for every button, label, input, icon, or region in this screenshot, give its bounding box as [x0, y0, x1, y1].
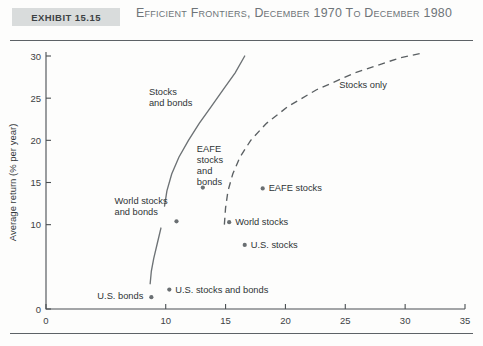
y-tick-label: 15 — [30, 177, 41, 188]
footer-divider-bottom — [10, 333, 473, 334]
x-tick-label: 20 — [280, 315, 291, 326]
x-tick-label: 25 — [340, 315, 351, 326]
data-point-label: bonds — [197, 177, 223, 187]
exhibit-header: Exhibit 15.15 Efficient Frontiers, Decem… — [0, 6, 483, 38]
data-point-label: stocks — [197, 155, 224, 165]
data-point-label: World stocks — [235, 217, 288, 227]
data-point-label: and — [197, 166, 213, 176]
y-tick-label: 0 — [36, 304, 41, 315]
y-tick-label: 30 — [30, 51, 41, 62]
exhibit-number-label: Exhibit 15.15 — [31, 12, 101, 23]
x-tick-label: 30 — [400, 315, 411, 326]
efficient-frontier-scatter-chart: 010152025300101520253035Risk (% per year… — [0, 44, 483, 329]
data-point-label: U.S. stocks and bonds — [175, 285, 268, 295]
data-point-u-s-stocks-and-bonds — [167, 288, 171, 292]
frontier-curve-stocks-only — [224, 53, 424, 225]
curve-label: and bonds — [149, 98, 193, 108]
curve-label: Stocks — [149, 87, 177, 97]
y-axis-title: Average return (% per year) — [7, 124, 18, 242]
chart-area: 010152025300101520253035Risk (% per year… — [0, 44, 483, 329]
data-point-label: U.S. stocks — [251, 240, 298, 250]
curve-label: Stocks only — [339, 80, 387, 90]
data-point-label: and bonds — [114, 207, 158, 217]
header-divider-top — [10, 40, 473, 41]
x-tick-label: 35 — [460, 315, 471, 326]
data-point-label: EAFE stocks — [269, 183, 323, 193]
annotations: Stocks onlyStocksand bondsU.S. bondsU.S.… — [97, 80, 387, 301]
x-tick-label: 10 — [160, 315, 171, 326]
data-point-u-s-stocks — [243, 243, 247, 247]
exhibit-number-badge: Exhibit 15.15 — [12, 8, 120, 26]
data-point-eafe-stocks — [261, 186, 265, 190]
y-tick-label: 25 — [30, 93, 41, 104]
data-point-label: EAFE — [197, 144, 221, 154]
x-tick-label: 15 — [220, 315, 231, 326]
y-tick-label: 10 — [30, 219, 41, 230]
y-tick-label: 20 — [30, 135, 41, 146]
data-point-label: World stocks — [114, 196, 167, 206]
data-point-u-s-bonds — [149, 295, 153, 299]
data-point-world-stocks — [227, 220, 231, 224]
x-tick-label: 0 — [43, 315, 48, 326]
exhibit-page: Exhibit 15.15 Efficient Frontiers, Decem… — [0, 0, 483, 346]
data-point-world-stocks-and-bonds — [174, 219, 178, 223]
data-point-label: U.S. bonds — [97, 291, 143, 301]
axis-lines — [46, 52, 465, 309]
exhibit-title: Efficient Frontiers, December 1970 to De… — [136, 6, 472, 20]
frontier-curve-world-stocks-and-bonds-lower — [150, 228, 161, 284]
